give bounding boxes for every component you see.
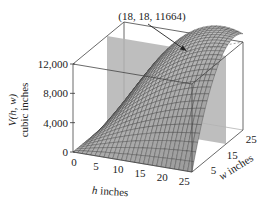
- z-tick-label: 12,000: [38, 58, 69, 70]
- z-axis-label-line2: cubic inches: [18, 83, 30, 138]
- x-tick-label: 5: [93, 160, 99, 172]
- y-tick-label: 5: [211, 164, 217, 176]
- surface-chart: 04,0008,00012,000051015202551525 (18, 18…: [0, 0, 265, 207]
- z-tick-label: 8,000: [43, 87, 68, 99]
- surface-plot-svg: 04,0008,00012,000051015202551525 (18, 18…: [0, 0, 265, 207]
- x-tick-label: 25: [179, 175, 191, 187]
- x-tick-label: 15: [135, 167, 147, 179]
- x-axis-label: h inches: [92, 184, 129, 199]
- z-tick-label: 4,000: [43, 117, 68, 129]
- x-tick-label: 10: [113, 163, 125, 175]
- x-tick-label: 0: [71, 156, 77, 168]
- max-point-annotation: (18, 18, 11664): [118, 10, 186, 23]
- x-tick-label: 20: [157, 171, 169, 183]
- z-tick-label: 0: [63, 146, 69, 158]
- y-tick-label: 25: [246, 133, 258, 145]
